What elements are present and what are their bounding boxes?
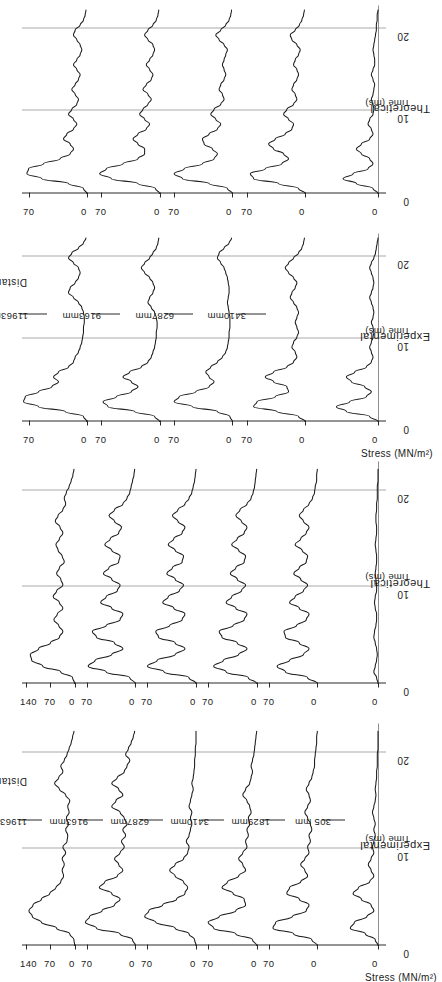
y-tick-label: 70 (95, 205, 106, 216)
y-tick-label: 70 (141, 695, 152, 706)
y-tick-label: 0 (69, 957, 75, 968)
panel-group-panel-4: 070070070070001020Time (ms)Theoretical (0, 0, 442, 227)
y-tick-label: 70 (202, 695, 213, 706)
panel-title: Experimental (360, 839, 430, 851)
plot-area: 070140070070070070001020Time (ms)Theoret… (22, 461, 386, 683)
trace-curve (22, 447, 406, 683)
y-tick-label: 70 (95, 433, 106, 444)
panel-group-panel-2: 070140070070070070001020Time (ms)Theoret… (0, 455, 442, 717)
x-tick-label: 0 (403, 947, 409, 958)
y-tick-label: 0 (154, 433, 160, 444)
x-tick-label: 10 (397, 850, 409, 861)
y-tick-label: 70 (81, 695, 92, 706)
y-tick-label: 0 (226, 433, 232, 444)
y-tick-label: 0 (190, 695, 196, 706)
y-tick-label: 0 (251, 957, 257, 968)
y-tick-label: 0 (129, 957, 135, 968)
x-tick-label: 0 (403, 685, 409, 696)
y-tick-label: 0 (81, 433, 87, 444)
x-tick-label: 20 (397, 258, 409, 269)
y-tick-label: 0 (311, 957, 317, 968)
plot-area: 07014011963mm0709163mm0706287mm0703410mm… (22, 723, 386, 945)
panel-group-panel-1: 07014011963mm0709163mm0706287mm0703410mm… (0, 717, 442, 979)
y-tick-label: 0 (372, 957, 378, 968)
panel-title: Theoretical (370, 577, 430, 589)
y-tick-label: 70 (263, 695, 274, 706)
y-tick-label: 70 (23, 433, 34, 444)
trace-curve (22, 217, 406, 421)
y-tick-label: 70 (202, 957, 213, 968)
y-tick-label: 70 (241, 433, 252, 444)
x-tick-label: 20 (397, 492, 409, 503)
trace-curve (22, 709, 406, 945)
trace-curve (22, 0, 406, 193)
y-tick-label: 70 (241, 205, 252, 216)
x-tick-label: 0 (403, 423, 409, 434)
y-tick-label: 0 (372, 433, 378, 444)
plot-area: 070070070070001020Time (ms)Theoretical (22, 5, 386, 193)
y-tick-label: 0 (372, 205, 378, 216)
x-tick-label: 0 (403, 195, 409, 206)
y-tick-label: 0 (154, 205, 160, 216)
y-tick-label: 70 (81, 957, 92, 968)
y-tick-label: 140 (20, 695, 37, 706)
y-tick-label: 70 (168, 205, 179, 216)
y-tick-label: 70 (44, 695, 55, 706)
y-tick-label: 0 (226, 205, 232, 216)
y-tick-label: 70 (168, 433, 179, 444)
y-tick-label: 0 (69, 695, 75, 706)
series-axis-label: Distance of strain gauges from toe of pi… (0, 276, 27, 287)
y-tick-label: 0 (251, 695, 257, 706)
y-tick-label: 0 (190, 957, 196, 968)
x-tick-label: 20 (397, 754, 409, 765)
panel-title: Theoretical (370, 102, 430, 114)
plot-area: 07011963mm0709163mm0706287mm0703410mm001… (22, 233, 386, 421)
y-axis-label: Stress (MN/m²) (365, 971, 437, 982)
y-tick-label: 70 (263, 957, 274, 968)
y-tick-label: 70 (23, 205, 34, 216)
y-tick-label: 0 (129, 695, 135, 706)
y-tick-label: 0 (372, 695, 378, 706)
y-tick-label: 0 (81, 205, 87, 216)
x-tick-label: 20 (397, 30, 409, 41)
trace-distance-label: 305 mm (295, 816, 331, 827)
y-tick-label: 0 (299, 205, 305, 216)
y-tick-label: 0 (299, 433, 305, 444)
y-tick-label: 70 (44, 957, 55, 968)
y-tick-label: 70 (141, 957, 152, 968)
y-tick-label: 140 (20, 957, 37, 968)
panel-title: Experimental (360, 330, 430, 342)
series-axis-label: Distance of strain gauges from toe of pi… (0, 775, 27, 786)
panel-group-panel-3: 07011963mm0709163mm0706287mm0703410mm001… (0, 227, 442, 455)
y-axis-label: Stress (MN/m²) (361, 447, 433, 458)
y-tick-label: 0 (311, 695, 317, 706)
x-tick-label: 10 (397, 588, 409, 599)
